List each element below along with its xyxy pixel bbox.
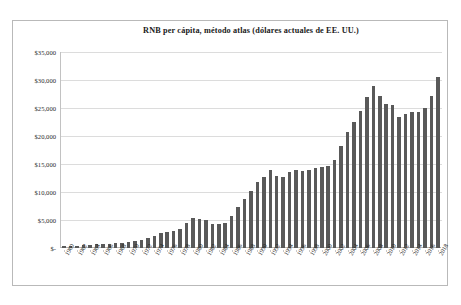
bar (346, 132, 350, 248)
bar (391, 105, 395, 248)
bar (372, 86, 376, 248)
bar (275, 176, 279, 248)
bar (243, 199, 247, 248)
bar (359, 111, 363, 248)
bar (178, 229, 182, 248)
bar (281, 177, 285, 248)
bar (217, 224, 221, 248)
bar (339, 146, 343, 248)
bar (326, 166, 330, 248)
bar (269, 170, 273, 248)
bar (352, 122, 356, 248)
bar (423, 108, 427, 248)
y-axis-tick-label: $30,000 (4, 77, 56, 84)
bar (191, 218, 195, 248)
y-axis-tick-label: $- (4, 245, 56, 252)
bar (436, 77, 440, 248)
bar (256, 182, 260, 248)
bar (204, 220, 208, 248)
bar (417, 112, 421, 248)
bar (165, 232, 169, 248)
bar (384, 104, 388, 248)
y-axis-tick-label: $15,000 (4, 161, 56, 168)
bar (320, 167, 324, 248)
bar (410, 112, 414, 248)
y-axis-tick-label: $10,000 (4, 189, 56, 196)
bar (307, 170, 311, 248)
bar (301, 171, 305, 248)
bar (294, 170, 298, 248)
screenshot-root: RNB per cápita, método atlas (dólares ac… (0, 0, 461, 305)
y-axis-tick-label: $35,000 (4, 49, 56, 56)
bar (288, 172, 292, 248)
chart-title: RNB per cápita, método atlas (dólares ac… (60, 26, 442, 35)
bar (333, 160, 337, 248)
bar (397, 117, 401, 248)
bar (230, 216, 234, 248)
y-axis-tick-label: $20,000 (4, 133, 56, 140)
bar (378, 96, 382, 248)
bar (430, 96, 434, 248)
x-axis-labels: 1960196219641966196819701972197419761978… (61, 250, 441, 300)
bar (249, 191, 253, 248)
y-axis-tick-label: $5,000 (4, 217, 56, 224)
bar (314, 168, 318, 248)
y-axis-labels: $35,000$30,000$25,000$20,000$15,000$10,0… (0, 52, 56, 248)
bar-series (61, 52, 441, 248)
bar (262, 177, 266, 248)
bar (365, 97, 369, 248)
bar (140, 240, 144, 248)
y-axis-tick-label: $25,000 (4, 105, 56, 112)
bar (404, 114, 408, 248)
